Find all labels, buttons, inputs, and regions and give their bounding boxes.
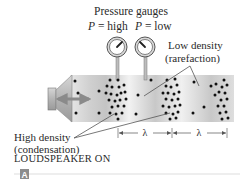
air-particle [226, 84, 229, 87]
air-particle [176, 84, 179, 87]
svg-text:P = low: P = low [134, 20, 172, 32]
air-particle [174, 78, 177, 81]
svg-text:P = high: P = high [87, 20, 128, 33]
air-particle [124, 91, 127, 94]
air-particle [98, 112, 101, 115]
air-particle [162, 105, 165, 108]
air-particle [217, 105, 220, 108]
air-particle [150, 79, 153, 82]
air-particle [168, 106, 171, 109]
air-particle [214, 94, 217, 97]
air-particle [219, 112, 222, 115]
air-particle [121, 112, 124, 115]
air-particle [109, 112, 112, 115]
air-particle [117, 118, 120, 121]
air-particle [179, 104, 182, 107]
air-tube [70, 75, 234, 122]
air-particle [77, 92, 80, 95]
air-particle [123, 84, 126, 87]
air-particle [111, 86, 114, 89]
air-particle [223, 105, 226, 108]
air-particle [221, 118, 224, 121]
air-particle [123, 105, 126, 108]
air-particle [226, 98, 229, 101]
gauge-label-low: P = low [134, 20, 172, 32]
air-particle [224, 92, 227, 95]
air-particle [114, 100, 117, 103]
air-particle [210, 85, 213, 88]
air-particle [115, 113, 118, 116]
gauge-stem-low [144, 56, 147, 80]
high-density-label: High density [14, 131, 71, 143]
air-particle [110, 93, 113, 96]
air-particle [220, 99, 223, 102]
air-particle [109, 79, 112, 82]
air-particle [125, 98, 128, 101]
wavelength-label: λ [197, 127, 202, 138]
pressure-gauges-title: Pressure gauges [94, 5, 168, 18]
air-particle [172, 113, 175, 116]
air-particle [116, 94, 119, 97]
air-particle [178, 91, 181, 94]
air-particle [119, 99, 122, 102]
air-particle [165, 98, 168, 101]
air-particle [218, 91, 221, 94]
wavelength-markers: λ λ [118, 127, 227, 138]
wavelength-label: λ [143, 127, 148, 138]
air-particle [192, 112, 195, 115]
air-particle [108, 99, 111, 102]
air-particle [170, 86, 173, 89]
pressure-gauge-high [107, 37, 127, 57]
panel-badge-label: A [21, 170, 27, 180]
air-particle [227, 117, 230, 120]
air-particle [177, 98, 180, 101]
air-particle [167, 92, 170, 95]
rarefaction-label: (rarefaction) [165, 52, 220, 65]
gauge-stem-high [116, 56, 119, 80]
sound-wave-diagram: Pressure gauges P = high P = low Low den… [0, 0, 247, 180]
air-particle [215, 83, 218, 86]
pressure-value-high: = high [95, 20, 128, 33]
air-particle [118, 86, 121, 89]
air-particle [117, 105, 120, 108]
air-particle [162, 92, 165, 95]
loudspeaker-on-caption: LOUDSPEAKER ON [14, 153, 111, 164]
air-particle [105, 92, 108, 95]
air-particle [135, 113, 138, 116]
air-particle [173, 93, 176, 96]
pressure-variable: P [134, 20, 142, 32]
air-particle [221, 86, 224, 89]
air-particle [111, 106, 114, 109]
air-particle [117, 79, 120, 82]
air-particle [137, 94, 140, 97]
air-particle [225, 111, 228, 114]
pressure-variable: P [87, 20, 95, 32]
air-particle [203, 106, 206, 109]
gauge-label-high: P = high [87, 20, 128, 33]
air-particle [75, 112, 78, 115]
air-particle [169, 118, 172, 121]
pressure-value-low: = low [142, 20, 172, 32]
air-particle [106, 85, 109, 88]
pressure-gauge-low [135, 37, 155, 57]
air-particle [74, 80, 77, 83]
air-particle [165, 85, 168, 88]
air-particle [174, 105, 177, 108]
air-particle [98, 90, 101, 93]
air-particle [175, 117, 178, 120]
air-particle [177, 111, 180, 114]
air-particle [193, 81, 196, 84]
air-particle [120, 92, 123, 95]
panel-badge: A [20, 169, 29, 180]
low-density-label: Low density [168, 39, 223, 51]
air-particle [171, 99, 174, 102]
air-particle [223, 79, 226, 82]
